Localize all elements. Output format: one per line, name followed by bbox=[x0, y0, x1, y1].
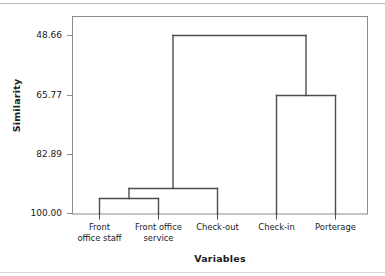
x-tick-label-front-office-staff: Front office staff bbox=[69, 222, 131, 243]
x-tick-label-front-office-service: Front office service bbox=[128, 222, 190, 243]
x-tick-label-check-out: Check-out bbox=[187, 222, 249, 233]
y-tick-label-82-89: 82.89 bbox=[16, 149, 62, 159]
y-tick-label-65-77: 65.77 bbox=[16, 90, 62, 100]
x-tick-label-check-in: Check-in bbox=[246, 222, 308, 233]
link-checkin-porterage bbox=[277, 96, 336, 215]
x-tick-label-line2: office staff bbox=[69, 233, 131, 244]
y-axis-ticks bbox=[67, 36, 73, 214]
dendrogram-plot bbox=[0, 0, 385, 276]
x-tick-label-line1: Porterage bbox=[305, 222, 367, 233]
plot-frame bbox=[73, 17, 368, 215]
x-axis-ticks bbox=[100, 214, 336, 220]
x-tick-label-line2: service bbox=[128, 233, 190, 244]
dendrogram-figure: 48.66 65.77 82.89 100.00 Front office st… bbox=[0, 0, 385, 276]
dendrogram-links bbox=[100, 36, 336, 215]
x-tick-label-line1: Front bbox=[69, 222, 131, 233]
link-root bbox=[173, 36, 306, 189]
link-cluster-checkout bbox=[129, 189, 218, 215]
y-axis-title: Similarity bbox=[11, 66, 22, 146]
y-tick-label-100-00: 100.00 bbox=[16, 208, 62, 218]
link-front-office-staff-service bbox=[100, 199, 159, 215]
x-tick-label-line1: Check-out bbox=[187, 222, 249, 233]
x-axis-title: Variables bbox=[72, 253, 368, 264]
x-tick-label-line1: Front office bbox=[128, 222, 190, 233]
x-tick-label-line1: Check-in bbox=[246, 222, 308, 233]
y-tick-label-48-66: 48.66 bbox=[16, 30, 62, 40]
x-tick-label-porterage: Porterage bbox=[305, 222, 367, 233]
